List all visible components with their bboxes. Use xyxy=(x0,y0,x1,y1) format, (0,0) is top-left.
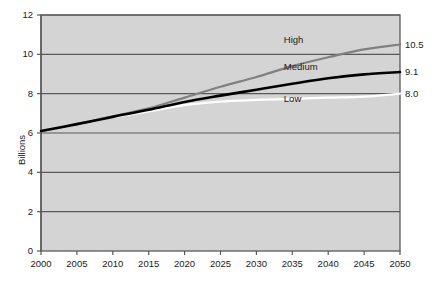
x-tick-label: 2030 xyxy=(236,259,276,269)
x-tick-label: 2005 xyxy=(57,259,97,269)
x-tick-label: 2035 xyxy=(272,259,312,269)
end-label-high: 10.5 xyxy=(405,40,424,50)
end-label-low: 8.0 xyxy=(405,89,418,99)
x-tick-label: 2015 xyxy=(129,259,169,269)
chart-canvas xyxy=(0,0,436,284)
x-tick-label: 2000 xyxy=(21,259,61,269)
x-tick-label: 2010 xyxy=(93,259,133,269)
y-tick-label: 10 xyxy=(7,49,33,59)
y-tick-label: 0 xyxy=(7,246,33,256)
x-tick-label: 2020 xyxy=(165,259,205,269)
series-label-low: Low xyxy=(284,94,301,104)
series-label-high: High xyxy=(284,35,304,45)
y-tick-label: 4 xyxy=(7,167,33,177)
x-tick-label: 2040 xyxy=(308,259,348,269)
y-tick-label: 8 xyxy=(7,89,33,99)
x-tick-label: 2045 xyxy=(344,259,384,269)
population-projection-chart: Billions 024681012 200020052010201520202… xyxy=(0,0,436,284)
y-tick-label: 6 xyxy=(7,128,33,138)
x-tick-label: 2025 xyxy=(201,259,241,269)
y-axis-title: Billions xyxy=(16,135,27,165)
series-label-medium: Medium xyxy=(284,62,318,72)
x-tick-label: 2050 xyxy=(380,259,420,269)
y-tick-label: 12 xyxy=(7,10,33,20)
end-label-medium: 9.1 xyxy=(405,67,418,77)
y-tick-label: 2 xyxy=(7,207,33,217)
